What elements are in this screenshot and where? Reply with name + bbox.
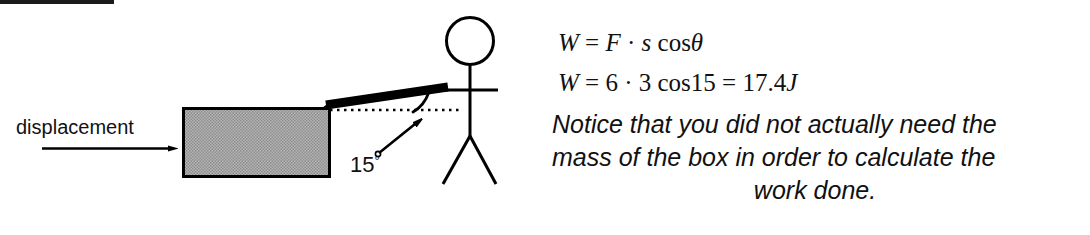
note-line-3: work done.	[542, 174, 1088, 207]
math-column: W = F · s cosθ W = 6 · 3 cos15 = 17.4J N…	[540, 0, 1090, 235]
eq1-part-3: ·	[621, 29, 642, 56]
angle-value: 15	[350, 152, 374, 177]
physics-illustration: displacement 15°	[0, 0, 540, 235]
person-right-leg	[470, 136, 496, 184]
person-head	[447, 18, 494, 65]
eq1-part-5: cos	[651, 29, 691, 56]
box-object	[184, 109, 330, 177]
eq1-part-2: F	[605, 29, 620, 56]
work-formula-general: W = F · s cosθ	[558, 29, 703, 57]
note-line-1: Notice that you did not actually need th…	[542, 108, 1088, 141]
angle-label: 15°	[350, 149, 380, 177]
eq2-part-1: = 6 · 3 cos15 = 17.4	[579, 69, 786, 96]
explanatory-note: Notice that you did not actually need th…	[542, 108, 1088, 207]
eq2-part-2: J	[786, 69, 797, 96]
angle-leader-arrow	[375, 124, 415, 157]
note-line-2: mass of the box in order to calculate th…	[542, 141, 1088, 174]
rope-force-vector	[322, 87, 448, 109]
degree-symbol: °	[374, 153, 379, 168]
person-left-leg	[443, 136, 470, 184]
worksheet-figure: displacement 15° W = F · s cosθ W = 6 · …	[0, 0, 1090, 235]
eq1-part-0: W	[558, 29, 579, 56]
eq1-part-1: =	[579, 29, 606, 56]
eq2-part-0: W	[558, 69, 579, 96]
stick-figure-person	[443, 18, 498, 185]
eq1-part-4: s	[642, 29, 652, 56]
displacement-label: displacement	[16, 116, 134, 138]
work-formula-evaluated: W = 6 · 3 cos15 = 17.4J	[558, 69, 797, 97]
eq1-part-6: θ	[691, 29, 703, 56]
